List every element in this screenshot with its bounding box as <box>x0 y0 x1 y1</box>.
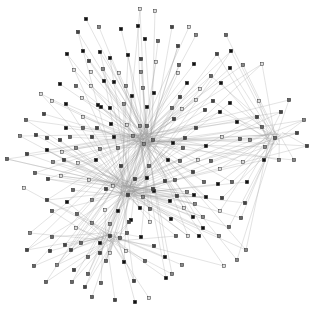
graph-node <box>176 71 179 74</box>
graph-node <box>224 33 227 36</box>
graph-node <box>204 144 207 147</box>
graph-node <box>74 146 77 149</box>
graph-node <box>75 212 78 215</box>
graph-node <box>139 70 142 73</box>
graph-node <box>101 67 104 70</box>
graph-edge <box>24 188 113 237</box>
graph-node <box>166 158 169 161</box>
graph-node <box>122 260 125 263</box>
graph-node <box>138 124 141 127</box>
graph-node <box>220 135 223 138</box>
graph-node <box>109 122 112 125</box>
graph-edge <box>229 141 274 227</box>
graph-node <box>147 164 150 167</box>
graph-node <box>219 81 222 84</box>
graph-node <box>65 52 68 55</box>
graph-node <box>131 134 134 137</box>
graph-node <box>170 272 173 275</box>
graph-node <box>201 226 204 229</box>
graph-node <box>257 99 260 102</box>
graph-node <box>108 106 111 109</box>
graph-edge <box>92 236 113 297</box>
graph-edge <box>218 135 281 184</box>
graph-node <box>97 25 100 28</box>
graph-node <box>116 209 119 212</box>
graph-node <box>98 147 101 150</box>
graph-edge <box>279 120 304 138</box>
graph-node <box>178 159 181 162</box>
graph-node <box>163 179 166 182</box>
graph-node <box>239 216 242 219</box>
graph-node <box>108 222 111 225</box>
graph-node <box>220 196 223 199</box>
graph-node <box>25 152 28 155</box>
graph-node <box>74 84 77 87</box>
graph-node <box>142 142 145 145</box>
network-graph <box>0 0 322 314</box>
graph-node <box>58 138 61 141</box>
graph-node <box>116 146 119 149</box>
graph-node <box>260 125 263 128</box>
graph-node <box>182 206 185 209</box>
graph-node <box>99 105 102 108</box>
graph-node <box>119 164 122 167</box>
graph-node <box>198 87 201 90</box>
graph-node <box>125 231 128 234</box>
graph-edge <box>282 132 307 146</box>
graph-node <box>192 62 195 65</box>
graph-node <box>164 276 167 279</box>
graph-node <box>145 105 148 108</box>
graph-node <box>204 195 207 198</box>
graph-node <box>235 120 238 123</box>
graph-node <box>174 234 177 237</box>
graph-node <box>81 49 84 52</box>
graph-node <box>71 188 74 191</box>
graph-node <box>60 150 63 153</box>
graph-node <box>230 180 233 183</box>
graph-node <box>279 110 282 113</box>
graph-node <box>218 209 221 212</box>
graph-node <box>228 101 231 104</box>
graph-node <box>111 184 114 187</box>
graph-node <box>90 198 93 201</box>
graph-node <box>154 60 157 63</box>
graph-node <box>51 160 54 163</box>
graph-node <box>89 84 92 87</box>
graph-node <box>81 115 84 118</box>
graph-node <box>32 264 35 267</box>
graph-node <box>45 198 48 201</box>
graph-node <box>216 182 219 185</box>
graph-node <box>84 17 87 20</box>
graph-node <box>192 193 195 196</box>
graph-edge <box>246 141 269 250</box>
graph-node <box>72 268 75 271</box>
graph-node <box>50 235 53 238</box>
graph-node <box>191 170 194 173</box>
graph-node <box>45 148 48 151</box>
graph-node <box>34 133 37 136</box>
graph-node <box>76 161 79 164</box>
graph-node <box>186 234 189 237</box>
graph-node <box>153 9 156 12</box>
graph-node <box>86 272 89 275</box>
graph-node <box>136 24 139 27</box>
graph-node <box>241 160 244 163</box>
graph-node <box>229 49 232 52</box>
graph-node <box>104 259 107 262</box>
graph-node <box>98 241 101 244</box>
graph-node <box>83 285 86 288</box>
graph-node <box>130 94 133 97</box>
graph-node <box>86 255 89 258</box>
graph-edge <box>282 138 294 160</box>
graph-node <box>102 79 105 82</box>
graph-node <box>90 135 93 138</box>
graph-node <box>156 39 159 42</box>
graph-node <box>203 108 206 111</box>
graph-node <box>227 225 230 228</box>
graph-node <box>171 141 174 144</box>
graph-node <box>55 263 58 266</box>
graph-node <box>103 208 106 211</box>
graph-node <box>64 126 67 129</box>
graph-node <box>175 194 178 197</box>
graph-node <box>90 221 93 224</box>
